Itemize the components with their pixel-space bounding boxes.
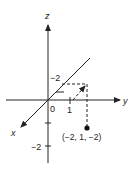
x-tick-label-minus-2: −2 [50, 73, 60, 83]
z-tick-label-minus-2: −2 [31, 142, 41, 152]
x-axis [21, 100, 48, 127]
point-marker [84, 125, 89, 130]
point-label: (−2, 1, −2) [62, 132, 101, 142]
origin-label: 0 [50, 104, 55, 114]
coordinate-diagram: z y x 0 1 −2 −2 (−2, 1, −2) [0, 0, 135, 170]
y-tick-label-1: 1 [67, 105, 72, 115]
dashed-diagonal-arrow [73, 86, 85, 100]
y-axis-label: y [122, 96, 128, 106]
z-axis-label: z [44, 11, 50, 21]
x-axis-label: x [10, 128, 16, 138]
